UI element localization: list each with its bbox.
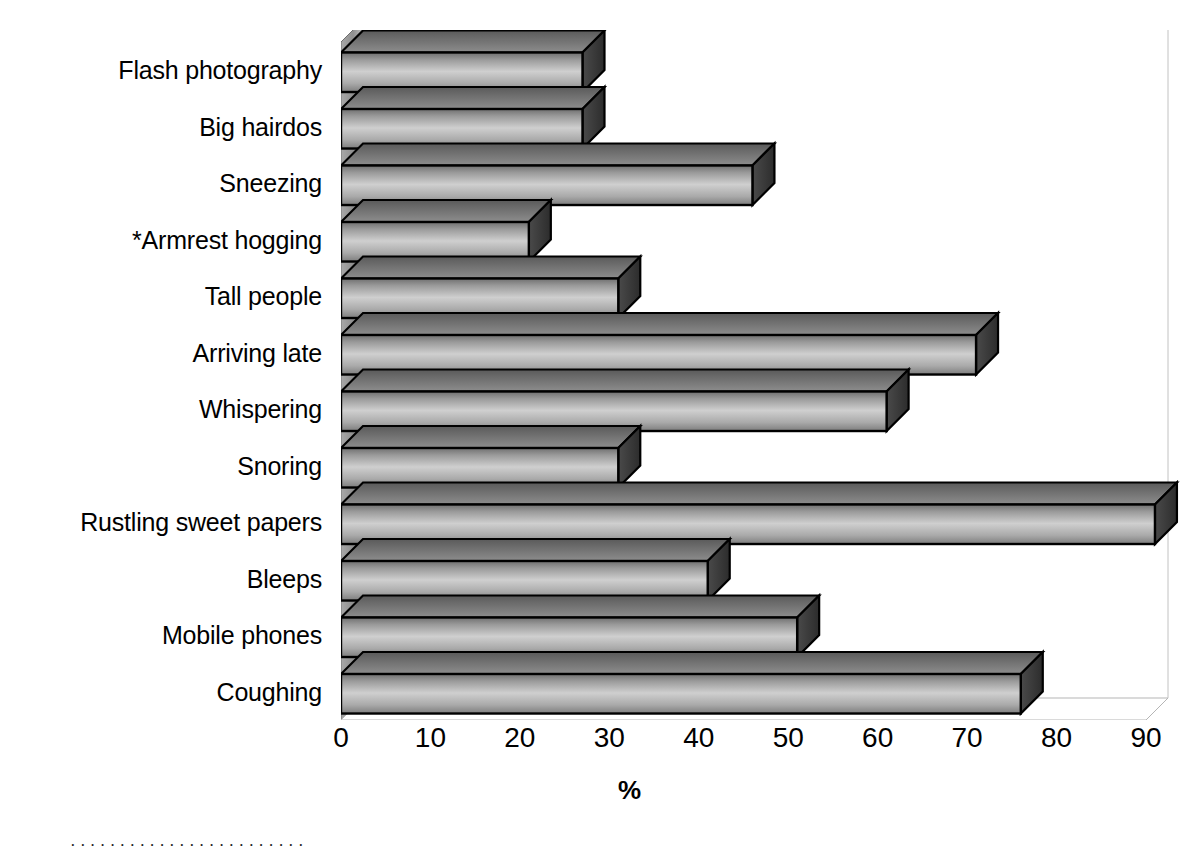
bar-group bbox=[341, 143, 774, 205]
bar-group bbox=[341, 482, 1177, 544]
x-tick-label: 40 bbox=[669, 722, 729, 754]
bar-top-face bbox=[341, 143, 774, 165]
category-label: Rustling sweet papers bbox=[80, 511, 322, 533]
bar-group bbox=[341, 652, 1043, 714]
category-label: *Armrest hogging bbox=[132, 229, 322, 251]
category-axis-labels: Flash photographyBig hairdosSneezing*Arm… bbox=[0, 42, 330, 708]
category-label: Tall people bbox=[205, 285, 322, 307]
bar-chart: Flash photographyBig hairdosSneezing*Arm… bbox=[0, 0, 1197, 852]
category-label: Big hairdos bbox=[199, 116, 322, 138]
bar-group bbox=[341, 256, 640, 318]
x-axis-tick-labels: 0102030405060708090 bbox=[341, 722, 1197, 762]
bar-top-face bbox=[341, 482, 1177, 504]
x-tick-label: 0 bbox=[311, 722, 371, 754]
x-tick-label: 80 bbox=[1027, 722, 1087, 754]
bar-top-face bbox=[341, 369, 909, 391]
bar-group bbox=[341, 200, 551, 262]
bar-group bbox=[341, 30, 605, 92]
figure-caption: · · · · · · · · · · · · · · · · · · · · … bbox=[70, 836, 1070, 852]
category-label: Whispering bbox=[199, 398, 322, 420]
bar-group bbox=[341, 369, 909, 431]
bar-top-face bbox=[341, 426, 640, 448]
x-tick-label: 20 bbox=[490, 722, 550, 754]
bar-top-face bbox=[341, 200, 551, 222]
bar-group bbox=[341, 313, 998, 375]
x-tick-label: 50 bbox=[758, 722, 818, 754]
category-label: Snoring bbox=[237, 455, 322, 477]
x-axis-title: % bbox=[0, 775, 1197, 806]
bar-front-face bbox=[341, 674, 1021, 714]
bar-group bbox=[341, 87, 605, 149]
bar-top-face bbox=[341, 256, 640, 278]
bar-top-face bbox=[341, 87, 605, 109]
x-tick-label: 60 bbox=[848, 722, 908, 754]
category-label: Arriving late bbox=[193, 342, 322, 364]
bar-top-face bbox=[341, 595, 819, 617]
bar-top-face bbox=[341, 652, 1043, 674]
bar-group bbox=[341, 426, 640, 488]
category-label: Bleeps bbox=[247, 568, 322, 590]
x-tick-label: 10 bbox=[400, 722, 460, 754]
bar-top-face bbox=[341, 313, 998, 335]
x-tick-label: 30 bbox=[579, 722, 639, 754]
category-label: Sneezing bbox=[219, 172, 322, 194]
bar-group bbox=[341, 539, 730, 601]
category-label: Flash photography bbox=[118, 59, 322, 81]
category-label: Coughing bbox=[217, 681, 322, 703]
x-axis-title-text: % bbox=[618, 775, 641, 806]
bar-top-face bbox=[341, 539, 730, 561]
bar-group bbox=[341, 595, 819, 657]
x-tick-label: 70 bbox=[937, 722, 997, 754]
x-tick-label: 90 bbox=[1116, 722, 1176, 754]
bar-top-face bbox=[341, 30, 605, 52]
plot-svg bbox=[341, 30, 1197, 720]
plot-area bbox=[341, 30, 1197, 720]
category-label: Mobile phones bbox=[162, 624, 322, 646]
